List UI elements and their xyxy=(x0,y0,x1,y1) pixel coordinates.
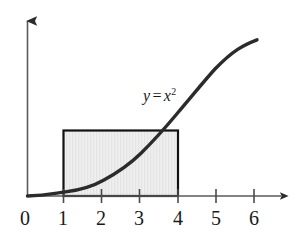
curve-label-exponent: 2 xyxy=(171,86,176,97)
x-tick-label-5: 5 xyxy=(206,208,226,228)
x-tick-label-6: 6 xyxy=(244,208,264,228)
shaded-rectangle xyxy=(64,131,179,197)
x-tick-label-3: 3 xyxy=(129,208,149,228)
x-tick-label-4: 4 xyxy=(168,208,188,228)
curve-label-equals: = xyxy=(150,87,163,104)
x-tick-label-0: 0 xyxy=(15,208,35,228)
x-tick-label-2: 2 xyxy=(91,208,111,228)
x-tick-label-1: 1 xyxy=(53,208,73,228)
curve-equation-label: y=x2 xyxy=(143,86,176,105)
figure-container: 0 1 2 3 4 5 6 y=x2 xyxy=(0,0,298,243)
